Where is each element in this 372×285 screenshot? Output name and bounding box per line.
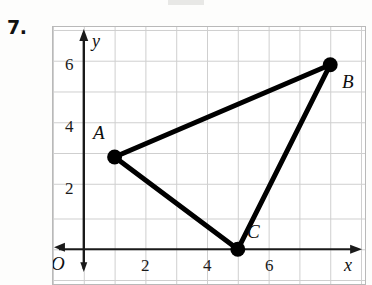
vertex-label-a: A <box>93 122 105 144</box>
vertex-point-b <box>323 57 338 72</box>
vertex-point-c <box>230 242 245 257</box>
x-tick-label-4: 4 <box>203 256 212 276</box>
x-tick-label-6: 6 <box>265 256 274 276</box>
x-tick-label-2: 2 <box>141 256 150 276</box>
y-axis-label: y <box>92 31 100 52</box>
y-tick-label-2: 2 <box>65 179 74 199</box>
vertex-label-c: C <box>247 221 260 243</box>
coordinate-plane-graph: A B C 6 4 2 2 4 6 y x O <box>52 26 366 285</box>
problem-number: 7. <box>7 16 26 38</box>
scan-artifact <box>168 0 204 5</box>
y-tick-label-6: 6 <box>65 55 74 75</box>
segment-ab <box>115 65 331 157</box>
y-tick-label-4: 4 <box>65 117 74 137</box>
vertex-point-a <box>107 150 122 165</box>
origin-label: O <box>52 253 65 275</box>
vertex-label-b: B <box>342 71 354 93</box>
x-axis-label: x <box>344 255 352 276</box>
segment-ca <box>115 157 238 249</box>
triangle-abc <box>53 27 365 284</box>
